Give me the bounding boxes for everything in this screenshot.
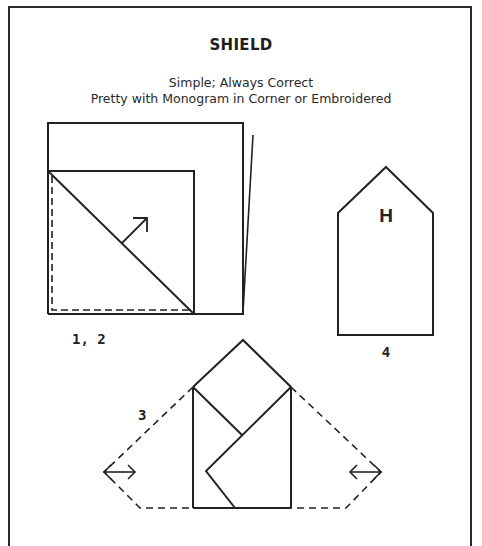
top-point (193, 340, 291, 387)
double-arrow-left-icon (104, 465, 135, 479)
dashed-left-flap (104, 387, 193, 508)
shield-outline (338, 167, 433, 335)
diagonal-fold (48, 171, 194, 314)
fold-direction-arrow-icon (122, 218, 147, 243)
figure-4 (338, 167, 433, 335)
inner-fold-left (193, 387, 242, 435)
dashed-right-flap (291, 387, 381, 508)
slanted-edge (243, 135, 253, 312)
label-step-3: 3 (138, 407, 146, 423)
inner-fold-zigzag (206, 387, 291, 508)
figure-1-2 (48, 123, 253, 314)
double-arrow-right-icon (350, 465, 381, 479)
label-step-1-2: 1, 2 (72, 331, 106, 347)
figure-3 (104, 340, 381, 508)
label-step-4: 4 (382, 344, 390, 360)
monogram-letter: H (379, 205, 393, 226)
